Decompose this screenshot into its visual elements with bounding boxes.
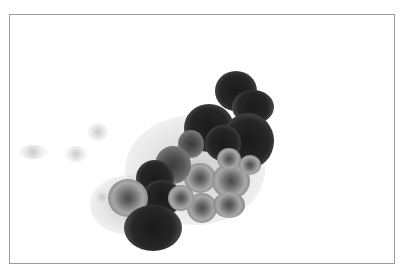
- dark-nucleus: [124, 205, 182, 251]
- nucleus: [213, 192, 245, 218]
- nucleus: [239, 155, 261, 175]
- debris: [65, 146, 87, 162]
- debris: [96, 191, 108, 203]
- micrograph-frame: [9, 14, 395, 264]
- debris: [18, 145, 48, 159]
- nucleus: [168, 185, 194, 211]
- nucleus: [217, 148, 241, 170]
- debris: [88, 123, 108, 141]
